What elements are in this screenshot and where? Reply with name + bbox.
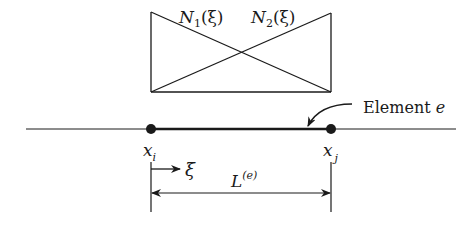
node-j-label: xj — [323, 140, 339, 165]
element-pointer-arrow — [308, 104, 352, 126]
shape-function-box — [151, 12, 331, 92]
n2-label: N2(ξ) — [250, 7, 296, 30]
length-label: L(e) — [230, 169, 257, 191]
element-label: Element e — [363, 98, 445, 117]
finite-element-diagram: N1(ξ) N2(ξ) xi xj Element e ξ L(e) — [0, 0, 473, 225]
n1-label: N1(ξ) — [178, 7, 224, 30]
node-j — [326, 124, 336, 134]
node-i — [146, 124, 156, 134]
node-i-label: xi — [143, 140, 156, 164]
local-coordinate-label: ξ — [185, 159, 196, 180]
